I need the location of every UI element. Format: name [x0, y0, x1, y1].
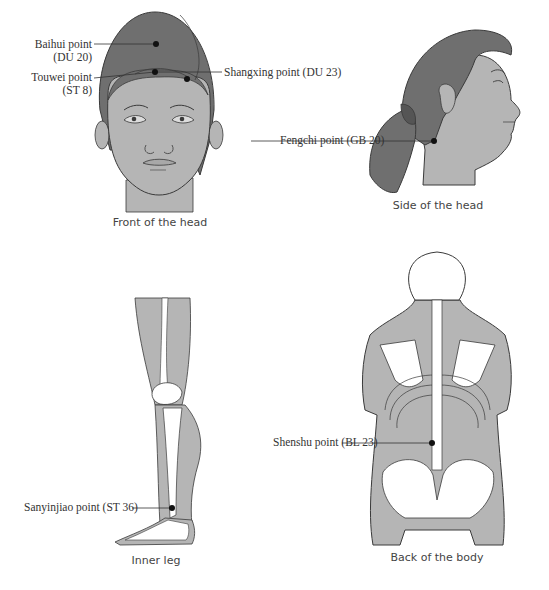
fengchi-point-label: Fengchi point (GB 20)	[280, 134, 384, 147]
touwei-point-marker	[184, 76, 190, 82]
panel-side-head: Fengchi point (GB 20) Side of the head	[275, 0, 549, 240]
sanyinjiao-point-marker	[169, 505, 175, 511]
baihui-point-code: (DU 20)	[35, 51, 92, 64]
caption-back-body: Back of the body	[390, 551, 483, 564]
fengchi-point-marker	[431, 138, 437, 144]
sanyinjiao-point-label: Sanyinjiao point (ST 36)	[24, 501, 138, 514]
caption-inner-leg: Inner leg	[132, 554, 181, 567]
caption-side-head: Side of the head	[393, 199, 483, 212]
touwei-point-name: Touwei point	[31, 71, 92, 84]
baihui-point-name: Baihui point	[35, 38, 92, 51]
baihui-point-marker	[153, 41, 159, 47]
inner-leg-illustration	[0, 280, 275, 590]
touwei-point-code: (ST 8)	[31, 84, 92, 97]
touwei-point-label: Touwei point (ST 8)	[31, 71, 92, 97]
caption-front-head: Front of the head	[113, 216, 207, 229]
shangxing-point-marker	[152, 69, 158, 75]
back-body-illustration	[275, 240, 549, 590]
panel-back-body: Shenshu point (BL 23) Back of the body	[275, 240, 549, 590]
shenshu-point-label: Shenshu point (BL 23)	[273, 436, 378, 449]
shenshu-point-marker	[429, 440, 435, 446]
panel-front-head: Baihui point (DU 20) Touwei point (ST 8)…	[0, 0, 275, 240]
panel-inner-leg: Sanyinjiao point (ST 36) Inner leg	[0, 280, 275, 590]
front-head-illustration	[0, 0, 275, 240]
baihui-point-label: Baihui point (DU 20)	[35, 38, 92, 64]
